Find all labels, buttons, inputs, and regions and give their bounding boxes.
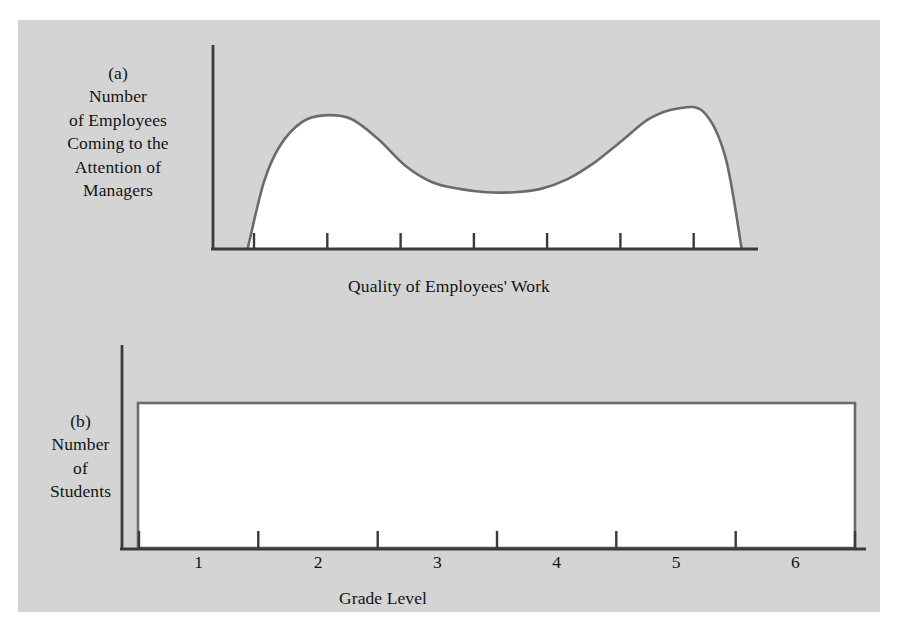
panel-b-tick-label: 3 [433, 552, 442, 573]
panel-b-tick-label: 1 [194, 552, 203, 573]
figure-container: (a) Number of Employees Coming to the At… [18, 20, 880, 612]
panel-a-curve-fill [248, 107, 742, 249]
panel-a: (a) Number of Employees Coming to the At… [18, 20, 880, 320]
panel-b: (b) Number of Students 123456 Grade Leve… [18, 320, 880, 612]
panel-b-tick-label: 2 [314, 552, 323, 573]
panel-b-tick-label: 4 [552, 552, 561, 573]
panel-b-tick-label: 6 [791, 552, 800, 573]
panel-b-tick-label: 5 [672, 552, 681, 573]
panel-a-xlabel: Quality of Employees' Work [18, 276, 880, 297]
panel-b-plot [18, 320, 880, 560]
figure-page: (a) Number of Employees Coming to the At… [18, 20, 880, 612]
panel-a-plot [18, 20, 880, 270]
panel-b-xlabel: Grade Level [18, 588, 748, 609]
panel-b-uniform-bar [138, 403, 855, 548]
panel-b-tick-labels: 123456 [18, 552, 880, 578]
